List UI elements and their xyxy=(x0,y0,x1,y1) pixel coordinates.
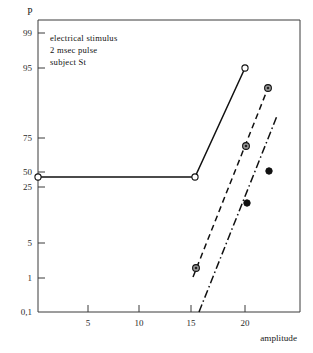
y-tick-label-1: 1 xyxy=(28,273,33,283)
x-tick-label-15: 15 xyxy=(187,318,197,328)
series-dashdot-path xyxy=(199,116,277,312)
x-axis-ticks xyxy=(88,305,245,312)
y-tick-label-5: 5 xyxy=(28,238,33,248)
y-axis-ticks xyxy=(38,33,45,278)
y-tick-label-95: 95 xyxy=(23,63,33,73)
series-dashdot-filled-circles xyxy=(199,116,277,312)
y-tick-label-75: 75 xyxy=(23,133,33,143)
x-tick-label-5: 5 xyxy=(86,318,91,328)
annotation-line-2: 2 msec pulse xyxy=(50,45,97,55)
probit-plot-figure: 99 95 75 50 25 5 1 0,1 5 10 15 20 P ampl… xyxy=(0,0,313,353)
y-tick-label-99: 99 xyxy=(23,28,33,38)
series-dashed-hatched-circles xyxy=(193,85,272,277)
series-solid-open-circles xyxy=(35,65,248,180)
annotation-text-block: electrical stimulus 2 msec pulse subject… xyxy=(50,33,118,67)
marker-hatched-circle xyxy=(265,85,272,92)
x-tick-label-20: 20 xyxy=(241,318,251,328)
x-axis-tick-labels: 5 10 15 20 xyxy=(86,318,250,328)
y-tick-label-0.1: 0,1 xyxy=(21,307,32,317)
series-solid-path xyxy=(38,68,245,177)
x-tick-label-10: 10 xyxy=(135,318,145,328)
y-tick-label-25: 25 xyxy=(23,182,33,192)
marker-hatched-circle xyxy=(193,265,200,272)
x-axis-label-amplitude: amplitude xyxy=(260,333,297,343)
marker-open-circle xyxy=(242,65,248,71)
y-tick-label-50: 50 xyxy=(23,167,33,177)
y-axis-label-p: P xyxy=(27,7,32,17)
annotation-line-1: electrical stimulus xyxy=(50,33,118,43)
y-axis-tick-labels: 99 95 75 50 25 5 1 0,1 xyxy=(21,28,33,317)
marker-hatched-circle xyxy=(243,143,250,150)
annotation-line-3: subject St xyxy=(50,57,87,67)
series-dashed-path xyxy=(193,88,268,277)
marker-open-circle xyxy=(35,174,41,180)
chart-canvas: 99 95 75 50 25 5 1 0,1 5 10 15 20 P ampl… xyxy=(0,0,313,353)
marker-filled-circle xyxy=(266,168,272,174)
marker-open-circle xyxy=(192,174,198,180)
marker-filled-circle xyxy=(244,200,250,206)
